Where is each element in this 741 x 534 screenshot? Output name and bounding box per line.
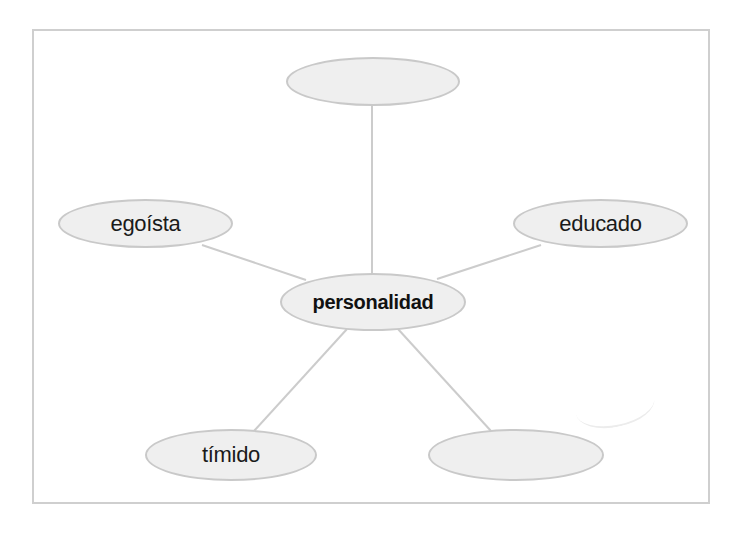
node-left-label: egoísta (110, 211, 180, 237)
node-bottom-right[interactable] (428, 429, 604, 481)
node-right[interactable]: educado (513, 199, 688, 248)
node-center-label: personalidad (313, 291, 434, 314)
node-top[interactable] (286, 57, 460, 106)
link-center-bottom-left (254, 329, 347, 431)
node-right-label: educado (559, 211, 641, 237)
node-left[interactable]: egoísta (58, 199, 233, 248)
node-bottom-left[interactable]: tímido (145, 429, 317, 481)
node-center[interactable]: personalidad (280, 273, 466, 331)
node-bottom-left-label: tímido (202, 442, 260, 468)
link-center-right (437, 245, 541, 279)
link-center-left (202, 245, 306, 280)
link-center-bottom-right (398, 329, 491, 431)
